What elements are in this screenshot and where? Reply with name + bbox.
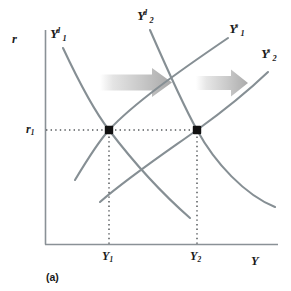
curve-label-demand-2: Yd2 [137, 9, 153, 23]
demand-shift-arrow [100, 68, 172, 97]
curve-label-supply-1-sub: 1 [241, 29, 245, 38]
demand-curve-1 [63, 48, 190, 218]
tick-label-y2-sub: 2 [197, 255, 201, 264]
diagram-canvas [0, 0, 291, 291]
curve-label-demand-2-sup: d [143, 8, 147, 17]
curve-label-supply-2: Ys2 [261, 47, 277, 61]
supply-curve-1 [75, 38, 228, 180]
equilibrium-point-1 [105, 126, 113, 134]
equilibrium-point-2 [193, 126, 201, 134]
curve-label-supply-2-sup: s [267, 46, 270, 55]
curves [63, 30, 275, 218]
curve-label-demand-1-sup: d [56, 26, 60, 35]
tick-label-y1: Y1 [102, 250, 113, 262]
curve-label-supply-2-sub: 2 [273, 54, 277, 63]
tick-label-y1-sub: 1 [109, 255, 113, 264]
panel-label: (a) [46, 271, 59, 283]
curve-label-demand-1: Yd1 [50, 27, 66, 41]
x-axis-label: Y [251, 255, 259, 268]
supply-curve-2 [100, 72, 268, 202]
axes [45, 30, 278, 245]
supply-shift-arrow [196, 70, 248, 97]
tick-label-r1-sub: 1 [31, 128, 35, 137]
y-axis-label: r [12, 33, 17, 46]
curve-label-demand-2-sub: 2 [149, 16, 153, 25]
curve-label-supply-1-sup: s [235, 21, 238, 30]
tick-label-r1: r1 [26, 123, 34, 135]
curve-label-supply-1: Ys1 [229, 22, 245, 36]
tick-label-r1-base: r [26, 122, 31, 136]
tick-label-y2: Y2 [190, 250, 201, 262]
loanable-funds-figure: r Y r1 Y1 Y2 Yd1 Yd2 Ys1 Ys2 (a) [0, 0, 291, 291]
curve-label-demand-1-sub: 1 [62, 34, 66, 43]
